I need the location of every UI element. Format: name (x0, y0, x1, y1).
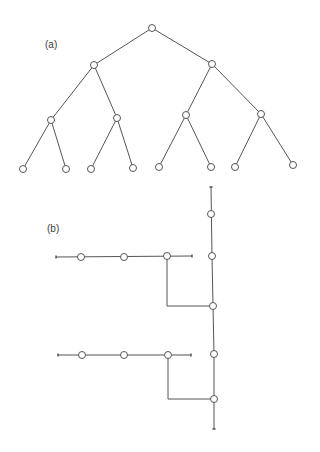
tree-node (149, 25, 156, 32)
tree-node (232, 164, 239, 171)
tree-node (210, 303, 217, 310)
panel-b-spine-layout (56, 187, 218, 429)
tree-node (290, 162, 297, 169)
tree-node (79, 352, 86, 359)
tree-node (20, 166, 27, 173)
panel-a-binary-tree (20, 25, 297, 173)
tree-node (88, 166, 95, 173)
tree-edge (159, 115, 186, 167)
tree-edge (94, 28, 152, 65)
tree-edge (117, 118, 133, 168)
tree-node (114, 115, 121, 122)
tree-edge (91, 118, 117, 169)
tree-node (183, 112, 190, 119)
tree-node (156, 164, 163, 171)
tree-node (208, 211, 215, 218)
tree-node (130, 165, 137, 172)
tree-edge (23, 120, 51, 169)
lower-elbow-line (168, 355, 214, 399)
tree-edge (152, 28, 212, 64)
panel-b-label: (b) (47, 224, 59, 234)
tree-edge (235, 114, 261, 167)
tree-node (209, 253, 216, 260)
panel-a-label: (a) (45, 40, 57, 50)
tree-edge (51, 120, 66, 169)
tree-node (78, 254, 85, 261)
tree-edge (94, 65, 117, 118)
tree-node (208, 164, 215, 171)
tree-node (121, 254, 128, 261)
tree-node (91, 62, 98, 69)
tree-node (48, 117, 55, 124)
tree-node (121, 352, 128, 359)
tree-edge (51, 65, 94, 120)
tree-node (209, 61, 216, 68)
tree-node (63, 166, 70, 173)
tree-edge (212, 64, 261, 114)
tree-edge (186, 115, 211, 167)
tree-node (165, 352, 172, 359)
tree-edge (261, 114, 293, 165)
tree-node (211, 396, 218, 403)
tree-edge (186, 64, 212, 115)
upper-elbow-line (167, 256, 213, 306)
tree-node (164, 253, 171, 260)
tree-node (211, 351, 218, 358)
tree-node (258, 111, 265, 118)
